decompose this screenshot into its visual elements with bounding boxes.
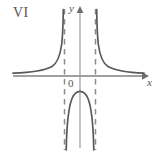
y-axis-label: y: [69, 3, 74, 14]
graph-canvas: [0, 0, 159, 153]
x-axis: [13, 72, 149, 80]
origin-label: 0: [68, 78, 74, 89]
x-axis-label: x: [147, 77, 152, 88]
curve-right-branch: [97, 10, 144, 74]
graph-figure: VI y x 0: [0, 0, 159, 153]
y-axis-arrowhead: [77, 6, 84, 13]
y-axis: [77, 6, 84, 148]
panel-label: VI: [13, 6, 29, 20]
